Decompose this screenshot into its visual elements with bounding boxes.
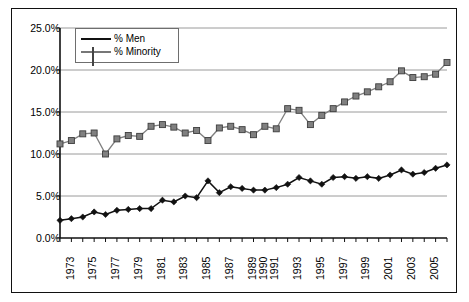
x-axis-tick-label: 2003: [406, 257, 417, 280]
x-axis-tick-label: 1995: [315, 257, 326, 280]
square-marker-icon: [92, 48, 94, 66]
x-axis-tick-label: 1999: [360, 257, 371, 280]
x-axis-tick-label: 1975: [87, 257, 98, 280]
x-axis-tick-label: 1987: [224, 257, 235, 280]
legend-key-men: [81, 33, 111, 44]
x-axis-tick-label: 1981: [156, 257, 167, 280]
x-axis-tick-label: 2001: [383, 257, 394, 280]
x-axis-tick-label: 1990: [258, 257, 269, 280]
legend-item-minority: % Minority: [81, 45, 173, 58]
x-axis-labels: 1973197519771979198119831985198719891990…: [0, 0, 469, 302]
legend-label-minority: % Minority: [114, 46, 161, 57]
x-axis-tick-label: 1977: [110, 257, 121, 280]
legend-line-minority: [81, 51, 111, 53]
legend-label-men: % Men: [114, 33, 145, 44]
x-axis-tick-label: 1979: [133, 257, 144, 280]
x-axis-tick-label: 1985: [201, 257, 212, 280]
x-axis-tick-label: 1993: [292, 257, 303, 280]
legend-item-men: % Men: [81, 32, 173, 45]
x-axis-tick-label: 1983: [178, 257, 189, 280]
x-axis-tick-label: 1973: [65, 257, 76, 280]
x-axis-tick-label: 1989: [247, 257, 258, 280]
x-axis-tick-label: 2005: [429, 257, 440, 280]
chart-legend: % Men % Minority: [75, 28, 179, 63]
legend-line-men: [81, 38, 111, 40]
legend-key-minority: [81, 46, 111, 57]
x-axis-tick-label: 1991: [269, 257, 280, 280]
x-axis-tick-label: 1997: [338, 257, 349, 280]
